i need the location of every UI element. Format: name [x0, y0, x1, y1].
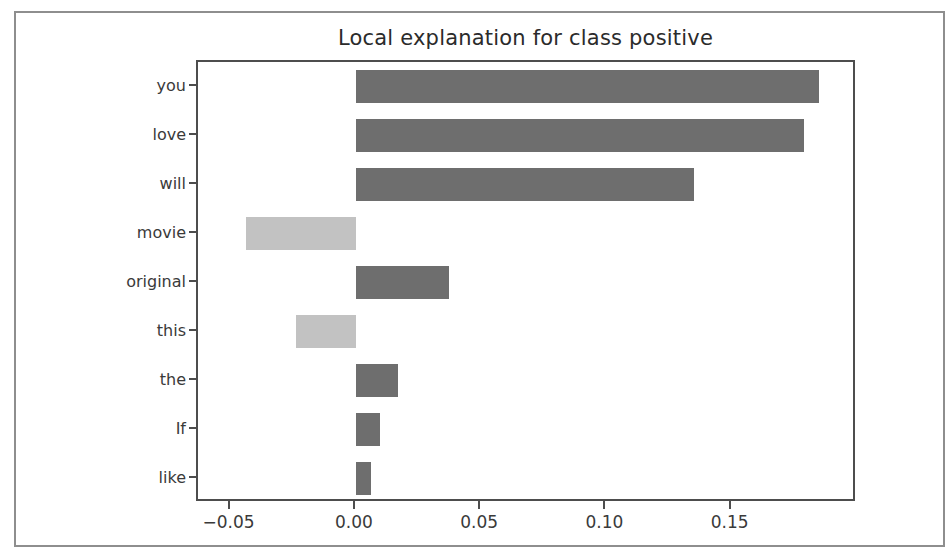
x-tick-mark — [478, 501, 480, 509]
x-tick-mark — [228, 501, 230, 509]
x-tick-label-3: 0.10 — [585, 512, 623, 532]
screenshot-root: Local explanation for class positive you… — [0, 0, 951, 556]
x-tick-label-2: 0.05 — [460, 512, 498, 532]
plot-axes — [196, 60, 855, 501]
x-tick-mark — [353, 501, 355, 509]
y-tick-label-you: you — [157, 75, 186, 94]
bar-original — [356, 266, 449, 299]
y-tick-label-love: love — [152, 124, 186, 143]
x-tick-label-1: 0.00 — [335, 512, 373, 532]
y-tick-mark — [189, 182, 197, 184]
bar-movie — [246, 217, 356, 250]
y-tick-mark — [189, 329, 197, 331]
y-tick-label-if: If — [176, 418, 186, 437]
bars-layer — [198, 62, 853, 499]
bar-if — [356, 413, 380, 446]
y-tick-mark — [189, 280, 197, 282]
bar-love — [356, 119, 805, 152]
bar-you — [356, 70, 820, 103]
y-tick-mark — [189, 84, 197, 86]
bar-the — [356, 364, 399, 397]
y-tick-mark — [189, 476, 197, 478]
y-tick-label-like: like — [159, 467, 186, 486]
bar-this — [296, 315, 356, 348]
y-tick-mark — [189, 133, 197, 135]
y-tick-label-the: the — [160, 369, 186, 388]
bar-will — [356, 168, 694, 201]
x-tick-mark — [603, 501, 605, 509]
y-tick-label-original: original — [126, 271, 186, 290]
y-tick-mark — [189, 427, 197, 429]
y-tick-label-this: this — [157, 320, 186, 339]
x-tick-label-4: 0.15 — [711, 512, 749, 532]
y-tick-mark — [189, 378, 197, 380]
page-title: Local explanation for class positive — [196, 26, 855, 50]
matplotlib-figure: Local explanation for class positive you… — [0, 0, 951, 556]
x-tick-label-0: −0.05 — [203, 512, 255, 532]
x-tick-mark — [729, 501, 731, 509]
bar-like — [356, 462, 371, 495]
y-tick-label-movie: movie — [137, 222, 186, 241]
y-tick-mark — [189, 231, 197, 233]
y-tick-label-will: will — [160, 173, 186, 192]
